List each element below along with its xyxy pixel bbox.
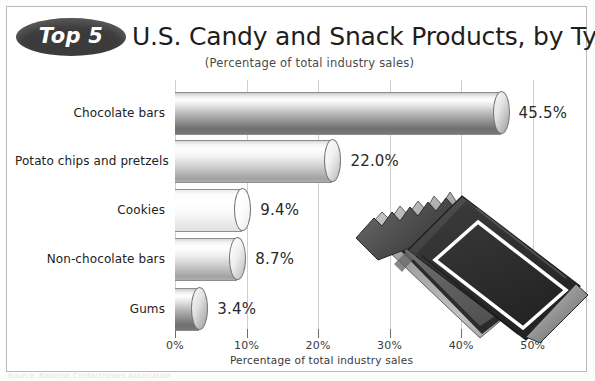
- bar-chocolate-bars: [175, 92, 501, 135]
- category-label: Chocolate bars: [15, 106, 165, 120]
- bar-cap-left: [167, 188, 184, 231]
- bar-cap-right: [493, 91, 510, 134]
- chart-container: Top 5 U.S. Candy and Snack Products, by …: [0, 0, 595, 381]
- value-label: 45.5%: [519, 104, 568, 122]
- x-axis-title: Percentage of total industry sales: [0, 354, 595, 366]
- bar-cap-right: [191, 287, 208, 330]
- bar-cap-left: [167, 139, 184, 182]
- x-tick-20: [318, 329, 319, 338]
- bar-cap-left: [167, 91, 184, 134]
- bar-cookies: [175, 189, 242, 232]
- value-label: 9.4%: [260, 201, 299, 219]
- bar-body: [175, 140, 332, 183]
- bar-body: [175, 92, 501, 135]
- bar-body: [175, 189, 242, 232]
- category-label: Non-chocolate bars: [15, 252, 165, 266]
- value-label: 3.4%: [217, 300, 256, 318]
- bar-cap-right: [229, 237, 246, 280]
- bar-cap-right: [234, 188, 251, 231]
- bar-non-chocolate-bars: [175, 238, 237, 281]
- bar-cap-left: [167, 287, 184, 330]
- category-label: Gums: [15, 302, 165, 316]
- bar-gums: [175, 288, 199, 331]
- source-note: Source: National Confectioners Associati…: [8, 372, 208, 381]
- category-label: Cookies: [15, 203, 165, 217]
- bar-potato-chips-and-pretzels: [175, 140, 332, 183]
- x-tick-label: 10%: [217, 339, 277, 352]
- bar-body: [175, 238, 237, 281]
- bar-cap-left: [167, 237, 184, 280]
- x-tick-label: 0%: [145, 339, 205, 352]
- x-tick-10: [247, 329, 248, 338]
- value-label: 8.7%: [255, 250, 294, 268]
- value-label: 22.0%: [350, 152, 399, 170]
- category-label: Potato chips and pretzels: [15, 154, 165, 168]
- candy-bar-illustration-icon: [330, 168, 592, 343]
